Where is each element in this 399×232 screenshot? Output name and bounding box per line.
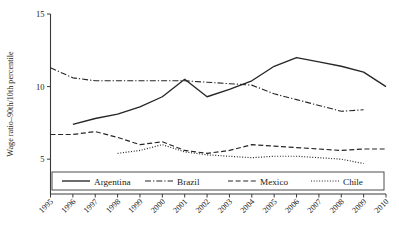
x-tick-label: 2008 bbox=[328, 197, 346, 215]
x-tick-label: 2010 bbox=[373, 197, 391, 215]
x-tick-label: 2005 bbox=[261, 197, 279, 215]
chart-svg: ArgentinaBrazilMexicoChile 5101519951996… bbox=[0, 0, 399, 232]
series-line-argentina bbox=[73, 58, 386, 125]
chart-legend: ArgentinaBrazilMexicoChile bbox=[52, 172, 384, 190]
x-tick-label: 2009 bbox=[350, 197, 368, 215]
x-tick-label: 2006 bbox=[283, 197, 301, 215]
y-axis-title: Wage ratio–90th/10th percentile bbox=[6, 51, 15, 157]
series-line-mexico bbox=[51, 132, 387, 154]
legend-label-mexico: Mexico bbox=[260, 177, 288, 187]
x-tick-label: 2003 bbox=[216, 197, 234, 215]
x-tick-label: 1997 bbox=[82, 197, 100, 215]
axes-group bbox=[47, 14, 386, 198]
legend-label-chile: Chile bbox=[343, 177, 363, 187]
x-tick-label: 1999 bbox=[127, 197, 145, 215]
wage-ratio-line-chart: ArgentinaBrazilMexicoChile 5101519951996… bbox=[0, 0, 399, 232]
series-line-brazil bbox=[51, 68, 364, 112]
y-tick-label: 5 bbox=[40, 154, 44, 164]
x-tick-label: 2000 bbox=[149, 197, 167, 215]
y-tick-label: 10 bbox=[36, 82, 45, 92]
x-tick-label: 1998 bbox=[104, 197, 122, 215]
legend-label-brazil: Brazil bbox=[177, 177, 200, 187]
x-tick-label: 1995 bbox=[37, 197, 55, 215]
x-tick-label: 2007 bbox=[306, 197, 324, 215]
y-tick-label: 15 bbox=[36, 9, 45, 19]
x-tick-label: 2001 bbox=[171, 197, 189, 215]
x-tick-label: 1996 bbox=[60, 197, 78, 215]
legend-label-argentina: Argentina bbox=[94, 177, 131, 187]
x-tick-label: 2004 bbox=[238, 197, 256, 215]
series-group bbox=[51, 58, 387, 164]
x-tick-label: 2002 bbox=[194, 197, 212, 215]
